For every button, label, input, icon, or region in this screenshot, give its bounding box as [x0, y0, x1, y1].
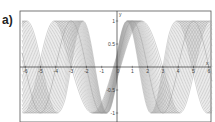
x-tick-label: -1	[99, 68, 104, 74]
x-tick-label: 0	[117, 68, 120, 74]
x-tick-label: 6	[207, 68, 210, 74]
y-tick-label: -0.5	[106, 87, 115, 93]
y-tick-label: 1	[112, 18, 115, 24]
x-tick-label: 4	[177, 68, 180, 74]
y-tick-label: 0.5	[108, 41, 115, 47]
x-tick-label: -4	[54, 68, 59, 74]
x-tick-label: -6	[23, 68, 28, 74]
x-tick-label: 5	[192, 68, 195, 74]
y-tick-label: -1	[111, 110, 116, 116]
x-tick-label: -5	[38, 68, 43, 74]
y-axis-label: y	[119, 11, 122, 17]
x-tick-label: -2	[84, 68, 89, 74]
sine-family-chart: -6-5-4-3-2-10123456-1-0.50.51yx	[0, 0, 215, 122]
x-tick-label: 1	[131, 68, 134, 74]
x-tick-label: 3	[162, 68, 165, 74]
x-tick-label: -3	[69, 68, 74, 74]
x-tick-label: 2	[146, 68, 149, 74]
